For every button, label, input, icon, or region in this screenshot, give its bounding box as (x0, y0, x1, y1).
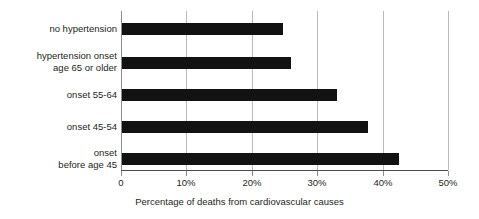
x-tick-label-10: 10% (176, 177, 195, 188)
category-label-onset-before-45: onset before age 45 (58, 147, 117, 170)
x-tick-0 (121, 171, 122, 176)
bar-no-hypertension (121, 23, 283, 35)
x-tick-20 (252, 171, 253, 176)
category-label-no-hypertension: no hypertension (49, 23, 117, 35)
x-tick-40 (383, 171, 384, 176)
x-tick-label-30: 30% (307, 177, 326, 188)
x-tick-label-40: 40% (373, 177, 392, 188)
bar-onset-65-or-older (121, 57, 291, 69)
category-label-onset-65-or-older: hypertension onset age 65 or older (37, 50, 117, 73)
x-tick-label-0: 0 (118, 177, 123, 188)
bar-onset-45-54 (121, 121, 368, 133)
x-tick-10 (186, 171, 187, 176)
plot-area (121, 11, 448, 170)
x-axis-title: Percentage of deaths from cardiovascular… (0, 196, 479, 207)
category-label-onset-45-54: onset 45-54 (67, 121, 117, 133)
y-axis-line (121, 11, 122, 170)
gridline-40 (383, 11, 384, 170)
x-tick-label-20: 20% (242, 177, 261, 188)
bar-chart: no hypertension hypertension onset age 6… (0, 0, 479, 219)
x-axis-line (121, 170, 448, 171)
x-tick-30 (317, 171, 318, 176)
bar-onset-55-64 (121, 89, 337, 101)
category-label-onset-55-64: onset 55-64 (67, 89, 117, 101)
x-tick-50 (448, 171, 449, 176)
x-tick-label-50: 50% (438, 177, 457, 188)
bar-onset-before-45 (121, 153, 399, 165)
gridline-50 (448, 11, 449, 170)
